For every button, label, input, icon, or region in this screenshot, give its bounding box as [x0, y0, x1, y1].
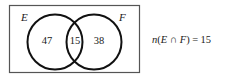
region-count-intersection: 15: [66, 36, 84, 47]
intersection-equation: n(E∩F)=15: [152, 35, 211, 46]
equation-value: 15: [201, 34, 212, 45]
equation-close-paren: ): [186, 34, 190, 45]
intersection-operator-icon: ∩: [170, 34, 178, 45]
venn-diagram-figure: E F 47 15 38 n(E∩F)=15: [0, 0, 225, 84]
region-count-e-only: 47: [38, 36, 56, 47]
set-label-f: F: [119, 12, 126, 23]
set-label-e: E: [21, 12, 28, 23]
equation-equals-sign: =: [192, 34, 198, 45]
region-count-f-only: 38: [90, 36, 108, 47]
equation-left-set: E: [161, 34, 167, 45]
